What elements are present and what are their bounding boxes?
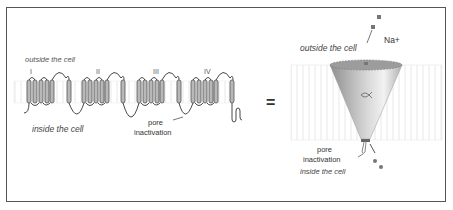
ion-label: Na+ xyxy=(384,36,400,45)
domain-label-iii: III xyxy=(153,68,159,75)
left-inside-label: inside the cell xyxy=(32,125,84,134)
domain-label-iv: IV xyxy=(204,68,211,75)
right-outside-label: outside the cell xyxy=(300,44,357,53)
diagram-graphics xyxy=(0,0,453,210)
left-pore-label-1: pore xyxy=(148,119,163,127)
left-outside-label: outside the cell xyxy=(25,56,75,64)
right-pore-label-2: inactivation xyxy=(303,156,341,164)
right-pore-label-1: pore xyxy=(317,146,332,154)
domain-label-i: I xyxy=(30,68,32,75)
left-pore-label-2: inactivation xyxy=(134,129,172,137)
right-inside-label: inside the cell xyxy=(300,168,345,176)
domain-label-ii: II xyxy=(96,68,100,75)
pore-inactivation-pointer xyxy=(358,154,363,157)
equals-sign: = xyxy=(266,95,275,111)
